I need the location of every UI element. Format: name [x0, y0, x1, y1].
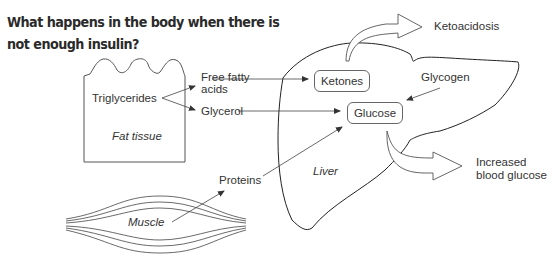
increased-blood-glucose-label-2: blood glucose: [476, 169, 547, 182]
triglycerides-label: Triglycerides: [92, 92, 157, 105]
proteins-label: Proteins: [219, 174, 261, 187]
muscle-label: Muscle: [128, 216, 164, 229]
arrow-muscle-to-proteins: [172, 191, 224, 222]
free-fatty-acids-label-2: acids: [201, 83, 228, 96]
increased-blood-glucose-label-1: Increased: [476, 156, 527, 169]
fat-tissue-shape: [84, 59, 185, 162]
fat-tissue-label: Fat tissue: [112, 130, 162, 143]
ketoacidosis-label: Ketoacidosis: [434, 20, 499, 33]
liver-label: Liver: [313, 165, 338, 178]
liver-shape: [278, 43, 519, 230]
ketones-node: Ketones: [314, 70, 370, 92]
glycerol-label: Glycerol: [201, 105, 243, 118]
glycogen-label: Glycogen: [421, 71, 470, 84]
diagram-canvas: [0, 0, 552, 259]
glucose-node: Glucose: [347, 102, 403, 124]
